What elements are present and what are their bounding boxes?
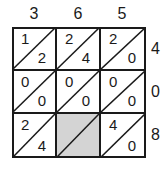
cell-tens-digit: 2 <box>109 31 117 47</box>
top-digit-2: 6 <box>56 5 100 23</box>
lattice-cell-r1c2: 2 4 <box>56 27 100 70</box>
diagonal-line-icon <box>101 28 145 69</box>
cell-ones-digit: 2 <box>38 50 46 66</box>
lattice-cell-r1c1: 1 2 <box>12 27 56 70</box>
lattice-cell-r2c2: 0 0 <box>56 70 100 113</box>
diagonal-line-icon <box>57 71 99 112</box>
top-digit-3: 5 <box>100 5 144 23</box>
lattice-cell-r3c3: 4 0 <box>100 113 146 158</box>
diagonal-line-icon <box>57 114 99 157</box>
lattice-cell-r3c1: 2 4 <box>12 113 56 158</box>
cell-tens-digit: 2 <box>65 31 73 47</box>
cell-tens-digit: 1 <box>21 31 29 47</box>
diagonal-line-icon <box>13 71 55 112</box>
cell-tens-digit: 0 <box>65 74 73 90</box>
cell-ones-digit: 0 <box>38 93 46 109</box>
diagonal-line-icon <box>101 114 145 157</box>
diagonal-line-icon <box>13 28 55 69</box>
diagonal-line-icon <box>57 28 99 69</box>
cell-tens-digit: 0 <box>109 74 117 90</box>
cell-tens-digit: 2 <box>21 117 29 133</box>
cell-ones-digit: 0 <box>82 93 90 109</box>
lattice-cell-r3c2-missing <box>56 113 100 158</box>
diagonal-line-icon <box>13 114 55 157</box>
cell-tens-digit: 0 <box>21 74 29 90</box>
top-digit-1: 3 <box>12 5 56 23</box>
right-digit-3: 8 <box>151 126 163 144</box>
lattice-cell-r1c3: 2 0 <box>100 27 146 70</box>
lattice-grid: 1 2 2 4 2 0 0 0 0 0 0 0 2 4 4 0 <box>12 27 146 158</box>
cell-ones-digit: 0 <box>128 93 136 109</box>
cell-ones-digit: 4 <box>82 50 90 66</box>
cell-ones-digit: 4 <box>38 138 46 154</box>
lattice-cell-r2c1: 0 0 <box>12 70 56 113</box>
lattice-cell-r2c3: 0 0 <box>100 70 146 113</box>
diagonal-line-icon <box>101 71 145 112</box>
right-digit-1: 4 <box>151 40 163 58</box>
cell-tens-digit: 4 <box>109 117 117 133</box>
right-digit-2: 0 <box>151 83 163 101</box>
cell-ones-digit: 0 <box>128 138 136 154</box>
cell-ones-digit: 0 <box>128 50 136 66</box>
